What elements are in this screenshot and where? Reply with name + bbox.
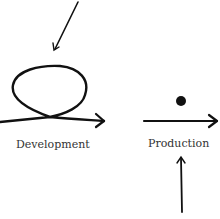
pointer-arrow-loop bbox=[53, 2, 78, 50]
development-label: Development bbox=[16, 138, 90, 151]
release-dot-icon bbox=[176, 96, 186, 106]
production-label: Production bbox=[148, 137, 209, 150]
iteration-loop-icon bbox=[0, 66, 104, 122]
diagram-canvas bbox=[0, 0, 220, 219]
pointer-arrow-production bbox=[177, 157, 185, 212]
